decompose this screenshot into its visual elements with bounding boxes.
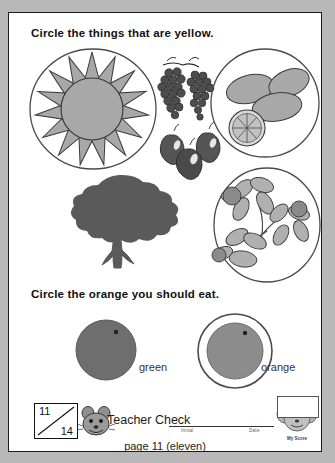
score-box: 11 14: [34, 403, 78, 439]
round-fruit-icon: [195, 311, 275, 391]
tree-icon: [49, 173, 189, 278]
stamp-banner: [277, 396, 319, 418]
round-fruit-icon: [71, 315, 141, 385]
teacher-check-label: Teacher Check: [107, 413, 190, 427]
exercise-1-prompt: Circle the things that are yellow.: [31, 27, 214, 39]
item-sun[interactable]: [27, 47, 162, 177]
stamp-label: My Score: [271, 436, 323, 441]
sun-icon: [27, 47, 162, 177]
choice-green[interactable]: [71, 315, 141, 385]
worksheet-footer: 11 14 Teacher Check Initial Date page 11: [9, 398, 321, 453]
initial-label: Initial: [181, 428, 194, 433]
choice-orange[interactable]: [195, 311, 275, 391]
teacher-signature-line[interactable]: [169, 426, 274, 427]
my-score-stamp: My Score: [271, 396, 323, 448]
daffodils-icon: [207, 165, 327, 287]
worksheet-page: Circle the things that are yellow.: [8, 12, 322, 452]
score-total: 14: [61, 425, 73, 437]
date-label: Date: [249, 428, 260, 433]
choice-green-label: green: [139, 361, 167, 373]
exercise-2-prompt: Circle the orange you should eat.: [31, 288, 219, 300]
item-daffodils[interactable]: [207, 165, 327, 287]
choice-orange-label: orange: [261, 361, 295, 373]
item-tree[interactable]: [49, 173, 189, 278]
